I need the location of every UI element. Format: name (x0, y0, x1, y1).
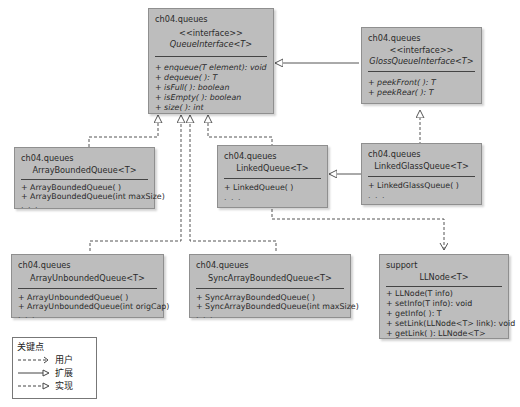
package-label: ch04.queues (368, 33, 421, 43)
operation: + dequeue( ): T (155, 73, 269, 83)
legend-title: 关键点 (17, 340, 92, 353)
class-array-unbounded-queue: ch04.queues ArrayUnboundedQueue<T> + Arr… (11, 254, 164, 318)
operations-list: + LLNode(T info) + setInfo(T info): void… (386, 289, 504, 339)
package-label: ch04.queues (224, 151, 277, 161)
separator (368, 176, 475, 177)
legend-item-uses: 用户 (17, 353, 92, 366)
class-linked-glass-queue: ch04.queues LinkedGlassQueue<T> + Linked… (361, 143, 482, 205)
operation-ellipsis: . . . (368, 191, 477, 201)
separator (368, 71, 475, 72)
separator (224, 178, 321, 179)
package-label: ch04.queues (196, 260, 249, 270)
operation: + isEmpty( ): boolean (155, 93, 269, 103)
class-name: GlossQueueInterface<T> (362, 56, 481, 66)
class-name: SyncArrayBoundedQueue<T> (190, 273, 350, 283)
class-ll-node: support LLNode<T> + LLNode(T info) + set… (379, 254, 509, 339)
operation: + ArrayUnboundedQueue(int origCap) (18, 302, 159, 311)
operation: + getInfo( ): T (386, 309, 504, 319)
operation: + SyncArrayBoundedQueue(int maxSize) (196, 302, 346, 311)
operation: + getLink( ): LLNode<T> (386, 329, 504, 339)
stereotype-label: <<interface>> (362, 45, 481, 55)
class-name: QueueInterface<T> (149, 39, 273, 49)
operations-list: + enqueue(T element): void + dequeue( ):… (155, 63, 269, 113)
stereotype-label: <<interface>> (149, 28, 273, 38)
class-queue-interface: ch04.queues <<interface>> QueueInterface… (148, 8, 274, 114)
legend-label: 用户 (55, 353, 73, 366)
operations-list: + SyncArrayBoundedQueue( ) + SyncArrayBo… (196, 293, 346, 320)
separator (18, 288, 157, 289)
separator (196, 288, 344, 289)
operations-list: + LinkedQueue( ) . . . (224, 183, 323, 203)
operation-ellipsis: . . . (18, 311, 159, 320)
class-sync-array-bounded-queue: ch04.queues SyncArrayBoundedQueue<T> + S… (189, 254, 351, 318)
legend-item-implements: 实现 (17, 379, 92, 392)
class-name: ArrayBoundedQueue<T> (15, 165, 154, 175)
operation: + isFull( ): boolean (155, 83, 269, 93)
operation: + SyncArrayBoundedQueue( ) (196, 293, 346, 302)
legend-item-extends: 扩展 (17, 366, 92, 379)
class-name: LinkedGlassQueue<T> (362, 161, 481, 171)
operation: + setInfo(T info): void (386, 299, 504, 309)
dashed-triangle-arrow-icon (17, 381, 53, 391)
class-linked-queue: ch04.queues LinkedQueue<T> + LinkedQueue… (217, 145, 328, 208)
operation: + LinkedQueue( ) (224, 183, 323, 193)
operations-list: + ArrayBoundedQueue( ) + ArrayBoundedQue… (21, 183, 150, 210)
operation-ellipsis: . . . (196, 311, 346, 320)
separator (155, 56, 267, 57)
legend: 关键点 用户 扩展 实现 (12, 337, 97, 399)
operations-list: + ArrayUnboundedQueue( ) + ArrayUnbounde… (18, 293, 159, 320)
operation-ellipsis: . . . (224, 193, 323, 203)
package-label: ch04.queues (18, 260, 71, 270)
solid-triangle-arrow-icon (17, 368, 53, 378)
operation-ellipsis: . . . (21, 201, 150, 210)
operations-list: + peekFront( ): T + peekRear( ): T (368, 78, 477, 98)
operation: + LinkedGlassQueue( ) (368, 181, 477, 191)
legend-label: 扩展 (55, 366, 73, 379)
operation: + ArrayBoundedQueue(int maxSize) (21, 192, 150, 201)
package-label: ch04.queues (368, 149, 421, 159)
operation: + LLNode(T info) (386, 289, 504, 299)
separator (21, 179, 148, 180)
operation: + ArrayBoundedQueue( ) (21, 183, 150, 192)
legend-label: 实现 (55, 379, 73, 392)
operation: + enqueue(T element): void (155, 63, 269, 73)
class-array-bounded-queue: ch04.queues ArrayBoundedQueue<T> + Array… (14, 147, 155, 209)
operation: + setLink(LLNode<T> link): void (386, 319, 504, 329)
operation: + ArrayUnboundedQueue( ) (18, 293, 159, 302)
class-name: LLNode<T> (380, 272, 508, 282)
package-label: support (386, 260, 417, 270)
package-label: ch04.queues (21, 153, 74, 163)
dashed-open-arrow-icon (17, 355, 53, 365)
operation: + peekRear( ): T (368, 88, 477, 98)
class-name: ArrayUnboundedQueue<T> (12, 273, 163, 283)
class-gloss-queue-interface: ch04.queues <<interface>> GlossQueueInte… (361, 27, 482, 104)
class-name: LinkedQueue<T> (218, 163, 327, 173)
operations-list: + LinkedGlassQueue( ) . . . (368, 181, 477, 201)
operation: + peekFront( ): T (368, 78, 477, 88)
package-label: ch04.queues (155, 14, 208, 24)
separator (386, 286, 502, 287)
operation: + size( ): int (155, 103, 269, 113)
